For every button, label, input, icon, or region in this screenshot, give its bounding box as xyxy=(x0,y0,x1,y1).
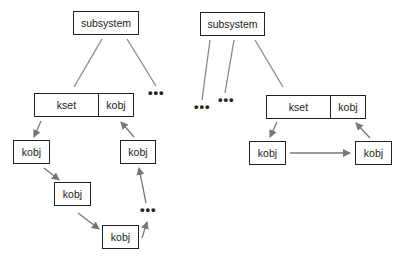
subsystem-label: subsystem xyxy=(207,18,257,30)
kobj-label: kobj xyxy=(258,147,277,159)
kobj-label: kobj xyxy=(128,146,147,158)
kobj-label: kobj xyxy=(63,188,82,200)
kobj-node-left-3: kobj xyxy=(102,225,139,249)
kobj-node-left-1: kobj xyxy=(13,140,50,164)
kset-kobj-cell: kobj xyxy=(99,94,133,116)
connector-lines xyxy=(0,0,405,263)
kobj-node-right-2: kobj xyxy=(355,141,392,165)
kset-cell: kset xyxy=(267,96,331,118)
subsystem-box-left: subsystem xyxy=(73,11,139,35)
subsystem-label: subsystem xyxy=(81,17,131,29)
ellipsis-right-a: ••• xyxy=(194,102,211,112)
kobj-label: kobj xyxy=(338,101,357,113)
kobj-node-left-2: kobj xyxy=(54,182,91,206)
kobj-label: kobj xyxy=(364,147,383,159)
subsystem-box-right: subsystem xyxy=(200,12,265,36)
kset-cell: kset xyxy=(35,94,99,116)
ellipsis-right-b: ••• xyxy=(218,95,235,105)
kobj-node-right-1: kobj xyxy=(249,141,286,165)
kobj-label: kobj xyxy=(106,99,125,111)
ellipsis-left-loop: ••• xyxy=(140,205,157,215)
kset-box-right: kset kobj xyxy=(266,95,366,119)
kobj-label: kobj xyxy=(22,146,41,158)
kset-label: kset xyxy=(57,99,76,111)
kobject-diagram: subsystem kset kobj ••• kobj kobj kobj k… xyxy=(0,0,405,263)
kset-label: kset xyxy=(289,101,308,113)
kobj-node-left-4: kobj xyxy=(120,140,156,164)
ellipsis-left-top: ••• xyxy=(148,88,165,98)
kset-kobj-cell: kobj xyxy=(331,96,365,118)
kset-box-left: kset kobj xyxy=(34,93,134,117)
kobj-label: kobj xyxy=(111,231,130,243)
